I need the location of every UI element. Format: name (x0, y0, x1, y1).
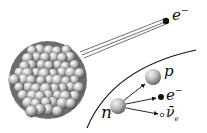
nucleus (9, 41, 88, 119)
antineutrino (160, 113, 164, 117)
proton (145, 69, 161, 85)
label-emitted-electron: e− (172, 7, 188, 23)
label-proton: p (164, 64, 174, 79)
nucleon (65, 98, 76, 109)
decay-arrows (123, 84, 158, 114)
label-antineutrino: ν̄e (166, 105, 179, 123)
neutron (110, 98, 126, 114)
emitted-electron (163, 18, 169, 24)
electron (158, 94, 164, 100)
label-neutron: n (101, 104, 112, 121)
nucleon (25, 105, 37, 117)
label-electron: e− (166, 87, 182, 103)
nucleon (52, 106, 63, 117)
electron-trail (80, 19, 166, 58)
